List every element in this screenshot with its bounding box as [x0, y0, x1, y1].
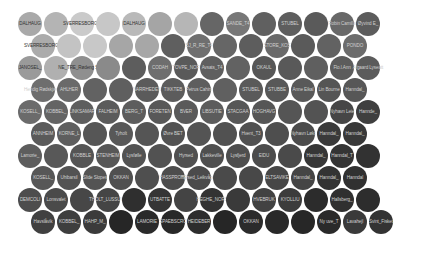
bubble-node[interactable] — [122, 144, 146, 168]
bubble-node[interactable] — [226, 144, 250, 168]
bubble-node[interactable] — [96, 56, 120, 80]
bubble-node[interactable] — [317, 122, 341, 146]
bubble-node[interactable] — [57, 78, 81, 102]
bubble-node[interactable] — [57, 210, 81, 234]
bubble-node[interactable] — [356, 56, 380, 80]
bubble-node[interactable] — [356, 188, 380, 212]
bubble-node[interactable] — [304, 144, 328, 168]
bubble-node[interactable] — [122, 12, 146, 36]
bubble-node[interactable] — [304, 188, 328, 212]
bubble-node[interactable] — [343, 166, 367, 190]
bubble-node[interactable] — [291, 34, 315, 58]
bubble-node[interactable] — [304, 12, 328, 36]
bubble-node[interactable] — [265, 166, 289, 190]
bubble-node[interactable] — [109, 210, 133, 234]
bubble-node[interactable] — [44, 12, 68, 36]
bubble-node[interactable] — [122, 188, 146, 212]
bubble-node[interactable] — [83, 78, 107, 102]
bubble-node[interactable] — [278, 144, 302, 168]
bubble-node[interactable] — [200, 100, 224, 124]
bubble-node[interactable] — [291, 122, 315, 146]
bubble-node[interactable] — [174, 100, 198, 124]
bubble-node[interactable] — [252, 12, 276, 36]
bubble-node[interactable] — [148, 144, 172, 168]
bubble-node[interactable] — [31, 166, 55, 190]
bubble-node[interactable] — [148, 188, 172, 212]
bubble-node[interactable] — [239, 34, 263, 58]
bubble-node[interactable] — [161, 122, 185, 146]
bubble-node[interactable] — [291, 210, 315, 234]
bubble-node[interactable] — [226, 56, 250, 80]
bubble-node[interactable] — [200, 144, 224, 168]
bubble-node[interactable] — [109, 122, 133, 146]
bubble-node[interactable] — [135, 122, 159, 146]
bubble-node[interactable] — [343, 122, 367, 146]
bubble-node[interactable] — [356, 12, 380, 36]
bubble-node[interactable] — [109, 78, 133, 102]
bubble-node[interactable] — [213, 122, 237, 146]
bubble-node[interactable] — [252, 100, 276, 124]
bubble-node[interactable] — [83, 34, 107, 58]
bubble-node[interactable] — [135, 78, 159, 102]
bubble-node[interactable] — [356, 100, 380, 124]
bubble-node[interactable] — [291, 78, 315, 102]
bubble-node[interactable] — [213, 78, 237, 102]
bubble-node[interactable] — [174, 56, 198, 80]
bubble-node[interactable] — [96, 188, 120, 212]
bubble-node[interactable] — [44, 144, 68, 168]
bubble-node[interactable] — [18, 12, 42, 36]
bubble-node[interactable] — [278, 56, 302, 80]
bubble-node[interactable] — [304, 56, 328, 80]
bubble-node[interactable] — [148, 100, 172, 124]
bubble-node[interactable] — [330, 12, 354, 36]
bubble-node[interactable] — [343, 78, 367, 102]
bubble-node[interactable] — [70, 100, 94, 124]
bubble-node[interactable] — [18, 100, 42, 124]
bubble-node[interactable] — [109, 166, 133, 190]
bubble-node[interactable] — [31, 210, 55, 234]
bubble-node[interactable] — [70, 56, 94, 80]
bubble-node[interactable] — [239, 210, 263, 234]
bubble-node[interactable] — [187, 78, 211, 102]
bubble-node[interactable] — [161, 166, 185, 190]
bubble-node[interactable] — [330, 100, 354, 124]
bubble-node[interactable] — [187, 34, 211, 58]
bubble-node[interactable] — [57, 34, 81, 58]
bubble-node[interactable] — [148, 56, 172, 80]
bubble-node[interactable] — [278, 100, 302, 124]
bubble-node[interactable] — [57, 166, 81, 190]
bubble-node[interactable] — [330, 188, 354, 212]
bubble-node[interactable] — [18, 144, 42, 168]
bubble-node[interactable] — [187, 166, 211, 190]
bubble-node[interactable] — [70, 12, 94, 36]
bubble-node[interactable] — [187, 122, 211, 146]
bubble-node[interactable] — [161, 210, 185, 234]
bubble-node[interactable] — [304, 100, 328, 124]
bubble-node[interactable] — [44, 188, 68, 212]
bubble-node[interactable] — [31, 122, 55, 146]
bubble-node[interactable] — [213, 166, 237, 190]
bubble-node[interactable] — [135, 34, 159, 58]
bubble-node[interactable] — [18, 56, 42, 80]
bubble-node[interactable] — [187, 210, 211, 234]
bubble-node[interactable] — [291, 166, 315, 190]
bubble-node[interactable] — [96, 144, 120, 168]
bubble-node[interactable] — [317, 210, 341, 234]
bubble-node[interactable] — [174, 12, 198, 36]
bubble-node[interactable] — [174, 188, 198, 212]
bubble-node[interactable] — [226, 12, 250, 36]
bubble-node[interactable] — [356, 144, 380, 168]
bubble-node[interactable] — [239, 122, 263, 146]
bubble-node[interactable] — [265, 122, 289, 146]
bubble-node[interactable] — [135, 210, 159, 234]
bubble-node[interactable] — [265, 34, 289, 58]
bubble-node[interactable] — [161, 34, 185, 58]
bubble-node[interactable] — [200, 188, 224, 212]
bubble-node[interactable] — [213, 34, 237, 58]
bubble-node[interactable] — [83, 122, 107, 146]
bubble-node[interactable] — [174, 144, 198, 168]
bubble-node[interactable] — [265, 78, 289, 102]
bubble-node[interactable] — [252, 56, 276, 80]
bubble-node[interactable] — [343, 34, 367, 58]
bubble-node[interactable] — [330, 144, 354, 168]
